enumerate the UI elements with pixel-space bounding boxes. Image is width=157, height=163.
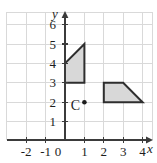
x-tick-label: 4 [139, 144, 146, 159]
x-axis-label: x [146, 141, 153, 156]
y-tick-label: 1 [50, 114, 57, 129]
y-tick-label: 5 [50, 37, 57, 52]
point-c-label: C [71, 98, 80, 113]
x-tick-label: 3 [120, 144, 127, 159]
y-axis-label: y [50, 6, 58, 21]
x-tick-label: -1 [40, 144, 51, 159]
coordinate-plane-svg: -2 -1 0 1 2 3 4 1 2 3 4 5 6 x y C [0, 0, 157, 163]
y-tick-label: 4 [50, 56, 57, 71]
x-axis-tick-labels: -2 -1 0 1 2 3 4 [21, 144, 147, 159]
point-c-dot [82, 100, 87, 105]
y-tick-label: 2 [50, 95, 57, 110]
x-tick-label: 0 [55, 144, 62, 159]
right-trapezoid-shape [104, 83, 143, 102]
x-tick-label: 1 [81, 144, 88, 159]
x-tick-label: -2 [21, 144, 32, 159]
y-axis-tick-labels: 1 2 3 4 5 6 [50, 17, 57, 129]
x-tick-label: 2 [101, 144, 108, 159]
coordinate-plane-figure: -2 -1 0 1 2 3 4 1 2 3 4 5 6 x y C [0, 0, 157, 163]
y-tick-label: 3 [50, 75, 57, 90]
